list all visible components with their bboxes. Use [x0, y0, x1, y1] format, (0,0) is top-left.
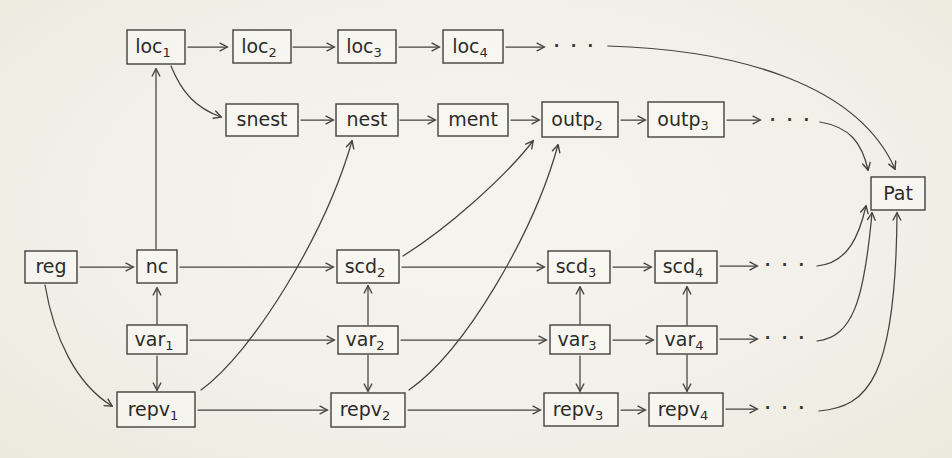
edge-reg-repv1 [45, 285, 112, 406]
node-var2: var2 [338, 326, 398, 354]
node-scd2: scd2 [337, 250, 399, 283]
edge-scd-ellipsis-pat [817, 206, 866, 266]
svg-text:snest: snest [237, 108, 288, 130]
outp-ellipsis: · · · [770, 111, 813, 129]
loc-ellipsis: · · · [554, 37, 597, 55]
edge-var-ellipsis-pat [817, 213, 872, 341]
node-pat: Pat [871, 177, 925, 210]
svg-text:reg: reg [35, 255, 66, 277]
node-reg: reg [25, 251, 77, 283]
node-repv3: repv3 [544, 393, 618, 426]
edge-scd2-outp2 [403, 141, 533, 256]
scanned-diagram-page: · · · · · · · · · · · · · · · loc1 loc2 … [0, 0, 952, 458]
node-repv2: repv2 [331, 393, 405, 427]
svg-text:nc: nc [146, 255, 169, 277]
svg-text:ment: ment [448, 108, 498, 130]
edge-repv1-nest [201, 141, 352, 390]
node-outp3: outp3 [648, 102, 724, 137]
edge-loc1-snest [171, 66, 221, 117]
node-scd4: scd4 [655, 251, 717, 283]
scd-ellipsis: · · · [765, 256, 808, 274]
node-nest: nest [336, 104, 398, 136]
edge-repv-ellipsis-pat [819, 213, 897, 411]
nodes-layer: loc1 loc2 loc3 loc4 snest nest ment ou [25, 30, 925, 427]
node-ment: ment [438, 104, 508, 136]
var-ellipsis: · · · [765, 329, 808, 347]
node-var4: var4 [657, 326, 717, 354]
node-nc: nc [137, 250, 177, 283]
node-repv4: repv4 [649, 393, 723, 426]
edges-layer [45, 46, 897, 411]
node-scd3: scd3 [548, 251, 610, 283]
edge-outp-ellipsis-pat [820, 122, 868, 170]
node-var3: var3 [550, 325, 610, 354]
node-snest: snest [226, 104, 298, 136]
node-loc3: loc3 [338, 30, 396, 63]
ellipsis-layer: · · · · · · · · · · · · · · · [554, 37, 813, 417]
svg-text:nest: nest [346, 108, 387, 130]
node-loc2: loc2 [233, 30, 291, 63]
svg-text:Pat: Pat [883, 182, 913, 204]
diagram-canvas: · · · · · · · · · · · · · · · loc1 loc2 … [0, 0, 952, 458]
node-loc1: loc1 [127, 30, 185, 64]
repv-ellipsis: · · · [765, 399, 808, 417]
node-repv1: repv1 [117, 392, 195, 427]
node-var1: var1 [127, 325, 187, 354]
node-loc4: loc4 [443, 30, 503, 63]
node-outp2: outp2 [542, 102, 618, 137]
